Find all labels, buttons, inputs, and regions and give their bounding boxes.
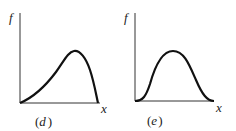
x-axis-label: x <box>100 101 107 116</box>
caption-e: (e) <box>147 113 162 128</box>
panel-d: f x (d) <box>9 10 107 129</box>
y-axis-label: f <box>124 10 130 25</box>
x-axis-label: x <box>215 100 222 115</box>
y-axis-label: f <box>9 10 15 25</box>
curve-e <box>135 51 214 101</box>
figure: f x (d) f x (e) <box>0 0 236 131</box>
panel-e: f x (e) <box>124 10 222 128</box>
caption-d: (d) <box>35 114 52 129</box>
curve-d <box>20 51 98 103</box>
